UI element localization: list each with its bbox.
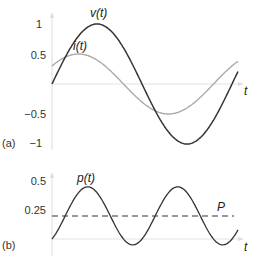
panel-b-t-label: t: [244, 240, 248, 254]
panel-a-label: (a): [2, 137, 15, 149]
panel-b-y-arrow-icon: [50, 172, 54, 178]
power-waveform-chart: 1 0.5 −0.5 −1 (a) v(t) i(t) t 0.5 0.25 (…: [0, 0, 258, 264]
panel-a-tick-minus-1: −1: [29, 137, 42, 149]
average-power-label: P: [217, 200, 225, 214]
panel-a-axes: [50, 12, 244, 150]
panel-a-tick-minus-0.5: −0.5: [24, 108, 46, 120]
panel-b-label: (b): [2, 239, 15, 251]
p-curve-label: p(t): [76, 171, 95, 185]
i-curve-label: i(t): [73, 39, 87, 53]
panel-a-t-label: t: [244, 84, 248, 98]
panel-b-tick-0.25: 0.25: [25, 204, 46, 216]
panel-a-tick-0.5: 0.5: [31, 49, 46, 61]
v-curve-label: v(t): [90, 6, 107, 20]
panel-a-y-arrow-icon: [50, 12, 54, 18]
panel-a-tick-1: 1: [36, 18, 42, 30]
panel-b-tick-0.5: 0.5: [31, 175, 46, 187]
